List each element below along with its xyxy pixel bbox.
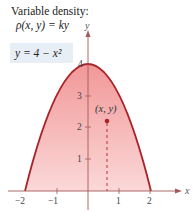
y-tick-3: 3 (77, 91, 82, 101)
y-tick-1: 1 (77, 154, 82, 164)
x-tick-neg1: −1 (48, 196, 58, 206)
point-marker (105, 119, 110, 124)
y-tick-2: 2 (77, 122, 82, 132)
x-tick-neg2: −2 (15, 196, 25, 206)
y-axis-arrow-icon (86, 30, 91, 37)
point-label: (x, y) (95, 103, 117, 115)
x-tick-2: 2 (147, 196, 152, 206)
parabola-diagram: −2 −1 1 2 1 2 3 4 x y (x, y) (0, 0, 193, 220)
x-axis-arrow-icon (175, 189, 182, 194)
y-tick-4: 4 (78, 59, 83, 69)
x-tick-1: 1 (116, 196, 121, 206)
x-axis-label: x (184, 185, 190, 196)
y-axis-label: y (84, 20, 90, 31)
